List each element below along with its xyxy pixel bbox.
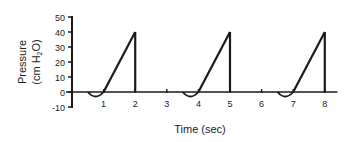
x-tick-label: 6 xyxy=(259,99,264,109)
y-axis-label-line1: Pressure xyxy=(16,40,28,84)
inspiratory-ramp xyxy=(198,32,230,92)
y-tick-label: 30 xyxy=(55,43,65,53)
series-layer xyxy=(88,32,325,97)
y-tick-label: 20 xyxy=(55,58,65,68)
x-tick-label: 8 xyxy=(322,99,327,109)
inspiratory-ramp xyxy=(104,32,136,92)
x-tick-label: 2 xyxy=(133,99,138,109)
y-tick-label: 40 xyxy=(55,28,65,38)
y-tick-label: 10 xyxy=(55,73,65,83)
x-axis-label: Time (sec) xyxy=(174,123,226,135)
x-tick-label: 5 xyxy=(227,99,232,109)
x-tick-label: 3 xyxy=(164,99,169,109)
x-tick-label: 1 xyxy=(101,99,106,109)
x-tick-label: 4 xyxy=(196,99,201,109)
x-tick-label: 7 xyxy=(291,99,296,109)
y-axis-label-line2: (cm H2O) xyxy=(30,39,43,84)
y-tick-label: 50 xyxy=(55,13,65,23)
y-axis-title: Pressure (cm H2O) xyxy=(16,39,43,84)
y-axis: 50403020100-10 xyxy=(52,13,72,113)
y-tick-label: -10 xyxy=(52,103,65,113)
y-tick-label: 0 xyxy=(60,88,65,98)
pressure-time-chart: Pressure (cm H2O) 50403020100-10 1234567… xyxy=(0,0,353,142)
x-axis: 12345678 xyxy=(66,89,337,109)
inspiratory-ramp xyxy=(293,32,325,92)
